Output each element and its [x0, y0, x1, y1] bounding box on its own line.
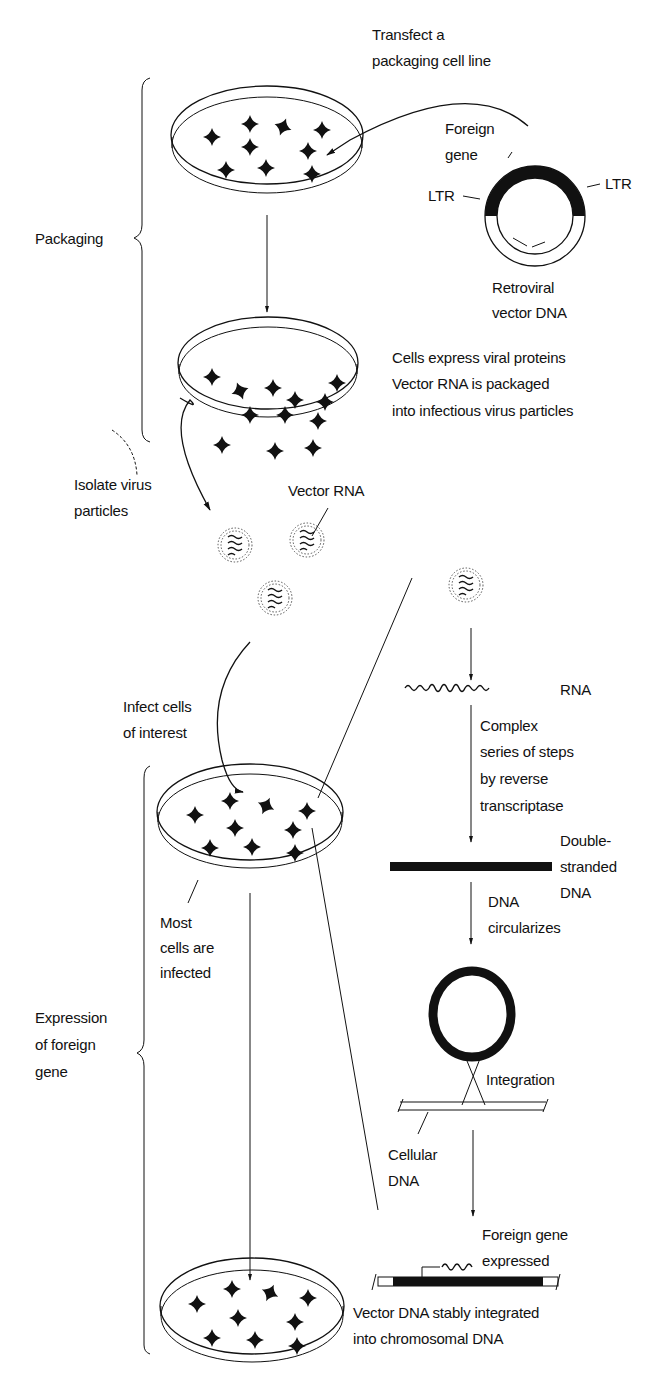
reverse-transcriptase-label: Complex series of steps by reverse trans… [480, 717, 574, 814]
rna-strand [405, 685, 489, 692]
packaging-bracket: Packaging [35, 78, 150, 442]
svg-text:infected: infected [160, 964, 211, 981]
svg-text:by reverse: by reverse [480, 770, 548, 787]
virus-particles [218, 523, 483, 615]
foreign-gene-expressed-label: Foreign gene expressed [482, 1226, 568, 1269]
vector-rna-label: Vector RNA [288, 482, 365, 499]
expression-label-1: Expression [35, 1009, 107, 1026]
expression-bracket: Expression of foreign gene [35, 766, 150, 1354]
svg-text:transcriptase: transcriptase [480, 797, 563, 814]
svg-text:Infect cells: Infect cells [123, 698, 191, 715]
zoom-line-bottom [312, 828, 378, 1210]
packaging-label: Packaging [35, 230, 103, 247]
infect-arrow [217, 642, 250, 792]
svg-text:Vector RNA is packaged: Vector RNA is packaged [392, 375, 549, 392]
svg-text:expressed: expressed [482, 1252, 549, 1269]
petri-dish-packaging-cells [171, 86, 363, 193]
dna-circularizes-label: DNA circularizes [488, 893, 561, 936]
rna-label: RNA [560, 681, 591, 698]
retroviral-gene-transfer-diagram: Transfect a packaging cell line Packagin… [0, 0, 664, 1378]
svg-text:vector DNA: vector DNA [492, 304, 567, 321]
cellular-dna: Cellular DNA [388, 1099, 548, 1189]
svg-text:Double-: Double- [560, 832, 611, 849]
svg-text:gene: gene [445, 146, 478, 163]
cells-express-label: Cells express viral proteins Vector RNA … [392, 349, 573, 419]
ltr-right-label: LTR [605, 175, 632, 192]
svg-text:Cellular: Cellular [388, 1146, 437, 1163]
svg-text:Most: Most [160, 914, 193, 931]
retroviral-vector-plasmid: Foreign gene LTR LTR Retroviral vector D… [428, 120, 632, 321]
svg-text:into infectious virus particle: into infectious virus particles [392, 402, 573, 419]
isolate-pointer [112, 430, 137, 475]
svg-text:particles: particles [74, 502, 128, 519]
infect-label: Infect cells of interest [123, 698, 191, 741]
svg-text:stranded: stranded [560, 858, 617, 875]
svg-text:Cells express viral proteins: Cells express viral proteins [392, 349, 566, 366]
integration-label: Integration [486, 1071, 555, 1088]
stably-integrated-label: Vector DNA stably integrated into chromo… [353, 1304, 539, 1347]
svg-text:series of steps: series of steps [480, 743, 574, 760]
most-cells-label: Most cells are infected [160, 914, 214, 981]
svg-text:into chromosomal DNA: into chromosomal DNA [353, 1330, 503, 1347]
transfect-label: Transfect a packaging cell line [372, 26, 491, 69]
svg-text:Isolate virus: Isolate virus [74, 476, 151, 493]
svg-text:Vector DNA stably integrated: Vector DNA stably integrated [353, 1304, 539, 1321]
svg-text:Complex: Complex [480, 717, 538, 734]
retroviral-vector-label: Retroviral [492, 279, 554, 296]
svg-text:DNA: DNA [388, 1172, 419, 1189]
petri-dish-infected-cells [157, 764, 343, 868]
svg-text:DNA: DNA [560, 884, 591, 901]
isolate-arrow [180, 398, 210, 510]
isolate-label: Isolate virus particles [74, 476, 151, 519]
svg-text:Transfect a: Transfect a [372, 26, 445, 43]
svg-text:of interest: of interest [123, 724, 188, 741]
svg-text:cells are: cells are [160, 939, 214, 956]
svg-text:packaging cell line: packaging cell line [372, 52, 491, 69]
svg-text:gene: gene [35, 1063, 68, 1080]
svg-text:DNA: DNA [488, 893, 519, 910]
svg-text:Foreign gene: Foreign gene [482, 1226, 568, 1243]
double-stranded-dna [390, 862, 552, 871]
svg-text:circularizes: circularizes [488, 919, 561, 936]
zoom-line-top [318, 578, 412, 798]
petri-dish-expressing-cells [160, 1258, 344, 1362]
foreign-gene-label: Foreign [445, 120, 494, 137]
svg-text:of foreign: of foreign [35, 1036, 96, 1053]
petri-dish-virus-production [178, 317, 358, 460]
vector-rna-pointer [312, 508, 328, 536]
ds-dna-label: Double- stranded DNA [560, 832, 617, 901]
ltr-left-label: LTR [428, 187, 455, 204]
